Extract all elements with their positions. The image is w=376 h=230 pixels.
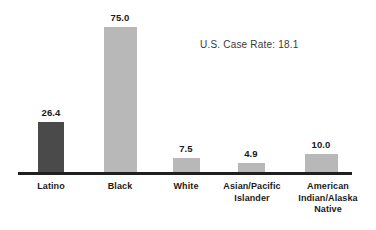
bar-latino	[38, 122, 64, 173]
bar-value-american-indian-alaska-native: 10.0	[296, 139, 346, 150]
category-label-line: American	[285, 181, 371, 193]
bar-black	[104, 27, 137, 173]
bar-value-black: 75.0	[95, 12, 145, 23]
category-label-line: Asian/Pacific	[213, 181, 291, 193]
category-label-line: Black	[95, 181, 145, 193]
x-axis-category-labels: Latino Black White Asian/Pacific Islande…	[0, 179, 376, 230]
category-label-line: Islander	[213, 193, 291, 205]
bar-value-white: 7.5	[161, 143, 211, 154]
plot-area: 26.4 75.0 7.5 4.9 10.0 U.S. Case Rate: 1…	[0, 0, 376, 176]
category-label-latino: Latino	[26, 181, 76, 193]
category-label-line: White	[161, 181, 211, 193]
us-case-rate-annotation: U.S. Case Rate: 18.1	[200, 39, 299, 50]
bar-chart: 26.4 75.0 7.5 4.9 10.0 U.S. Case Rate: 1…	[0, 0, 376, 230]
bar-value-latino: 26.4	[26, 107, 76, 118]
category-label-line: Indian/Alaska	[285, 193, 371, 205]
category-label-black: Black	[95, 181, 145, 193]
category-label-line: Native	[285, 204, 371, 216]
bar-american-indian-alaska-native	[305, 154, 338, 173]
category-label-line: Latino	[26, 181, 76, 193]
bar-white	[173, 158, 200, 173]
category-label-white: White	[161, 181, 211, 193]
bar-value-asian-pacific-islander: 4.9	[226, 148, 276, 159]
category-label-american-indian-alaska-native: American Indian/Alaska Native	[285, 181, 371, 216]
x-axis-baseline	[18, 172, 352, 175]
category-label-asian-pacific-islander: Asian/Pacific Islander	[213, 181, 291, 204]
